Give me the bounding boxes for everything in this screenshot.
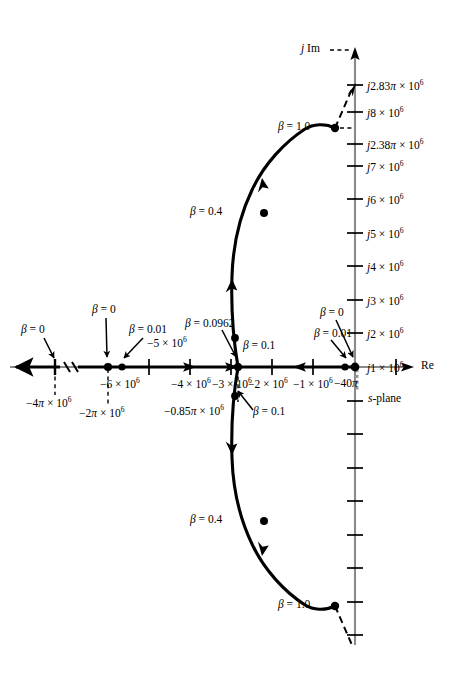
beta-label-0-far-left: β = 0 (21, 324, 45, 336)
imag-tick-label-5: j5 × 106 (367, 227, 403, 240)
beta-label-1_0-lower: β = 1.0 (278, 599, 310, 611)
pole-minus6 (104, 363, 112, 371)
label-minus-40pi: −40π (334, 378, 358, 390)
real-tick-label-minus3: −3 × 106 (212, 377, 252, 390)
imag-tick-label-3: j3 × 106 (367, 294, 403, 307)
locus-point-beta04-lower (260, 517, 268, 525)
imag-tick-label-2: j2 × 106 (367, 327, 403, 340)
beta-label-0_0962: β = 0.0962 (185, 318, 235, 330)
imag-tick-label-6: j6 × 106 (367, 193, 403, 206)
root-locus-figure (0, 0, 464, 687)
label-minus-0_85pi: −0.85π × 106 (164, 404, 224, 417)
locus-point-beta10-upper (331, 124, 339, 132)
locus-point-beta001-left (118, 363, 125, 370)
real-tick-label-minus1: −1 × 106 (293, 377, 333, 390)
beta-label-0_1-upper: β = 0.1 (243, 340, 275, 352)
real-axis-label: Re (421, 360, 434, 372)
beta-label-0_4-lower: β = 0.4 (190, 514, 222, 526)
pole-origin (351, 363, 360, 372)
imag-tick-label-4: j4 × 106 (367, 260, 403, 273)
imag-tick-label-8: j8 × 106 (367, 106, 403, 119)
beta-label-0-pole-minus6: β = 0 (92, 304, 116, 316)
beta-label-0_01-right: β = 0.01 (314, 328, 352, 340)
beta-label-0_01-left: β = 0.01 (129, 324, 167, 336)
imaginary-axis (347, 47, 363, 645)
real-tick-label-minus5: −5 × 106 (147, 336, 187, 349)
breakaway-point (234, 363, 242, 371)
annotation-leaders (44, 318, 353, 410)
label-minus-4pi: −4π × 106 (26, 396, 72, 409)
imag-tick-label-2_83pi: j2.83π × 106 (367, 79, 424, 92)
locus-point-beta10-lower (331, 602, 339, 610)
s-plane-label: s-plane (368, 393, 401, 405)
locus-point-beta04-upper (260, 209, 268, 217)
beta-label-0_1-lower: β = 0.1 (253, 406, 285, 418)
real-tick-label-minus2: −2 × 106 (248, 377, 288, 390)
locus-point-beta01-lower (231, 392, 239, 400)
label-minus-2pi: −2π × 106 (79, 406, 125, 419)
beta-label-1_0-upper: β = 1.0 (278, 121, 310, 133)
imag-tick-label-1: j1 × 106 (367, 361, 403, 374)
imaginary-axis-label: j Im (301, 43, 320, 55)
real-tick-label-minus4: −4 × 106 (171, 377, 211, 390)
real-tick-label-minus6: −6 × 106 (100, 377, 140, 390)
beta-label-0-origin: β = 0 (320, 307, 344, 319)
beta-label-0_4-upper: β = 0.4 (190, 206, 222, 218)
imag-tick-label-2_38pi: j2.38π × 106 (367, 138, 424, 151)
locus-point-beta01-upper (231, 334, 239, 342)
locus-point-beta001-right (341, 363, 348, 370)
imag-tick-label-7: j7 × 106 (367, 160, 403, 173)
